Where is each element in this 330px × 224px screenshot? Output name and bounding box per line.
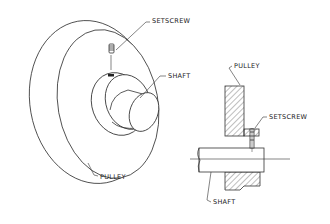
- label-shaft-iso: SHAFT: [168, 73, 191, 80]
- label-pulley-iso: PULLEY: [100, 174, 126, 181]
- diagram-drawing: [0, 0, 330, 224]
- pulley-isometric: [17, 10, 171, 193]
- label-shaft-section: SHAFT: [213, 199, 236, 206]
- label-setscrew-section: SETSCREW: [269, 114, 307, 121]
- pulley-section: [190, 66, 290, 202]
- label-pulley-section: PULLEY: [234, 63, 260, 70]
- label-setscrew-iso: SETSCREW: [152, 18, 190, 25]
- diagram-canvas: SETSCREW SHAFT PULLEY PULLEY SETSCREW SH…: [0, 0, 330, 224]
